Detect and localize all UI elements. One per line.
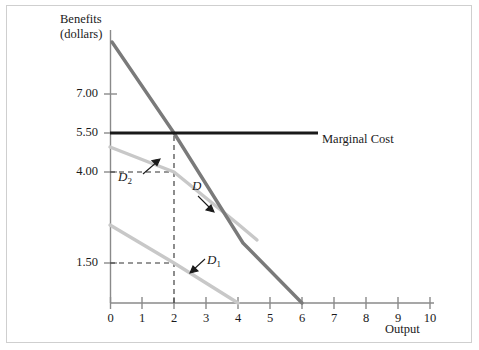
y-axis-title-line2: (dollars) <box>60 27 102 42</box>
x-tick-label-8: 8 <box>354 311 378 326</box>
d1-curve-label: D1 <box>207 252 221 268</box>
x-tick-label-0: 0 <box>99 311 123 326</box>
d1-curve-label-subscript: 1 <box>216 259 221 269</box>
marginal-cost-label: Marginal Cost <box>322 132 394 147</box>
d2-curve-label: D2 <box>118 169 132 185</box>
figure-container: Benefits (dollars) Output 7.00 5.50 4.00… <box>0 0 479 350</box>
d2-curve-label-subscript: 2 <box>127 176 132 186</box>
y-tick-label-4: 4.00 <box>52 164 98 179</box>
x-tick-label-4: 4 <box>226 311 250 326</box>
y-tick-label-7: 7.00 <box>52 86 98 101</box>
x-tick-label-9: 9 <box>386 311 410 326</box>
y-tick-label-1_5: 1.50 <box>52 255 98 270</box>
d1-curve-label-text: D <box>207 252 216 267</box>
curve-d2 <box>110 147 257 240</box>
d-curve-label-text: D <box>192 178 201 193</box>
x-tick-label-7: 7 <box>322 311 346 326</box>
x-tick-label-6: 6 <box>290 311 314 326</box>
x-tick-label-1: 1 <box>130 311 154 326</box>
x-tick-label-3: 3 <box>194 311 218 326</box>
x-tick-label-2: 2 <box>162 311 186 326</box>
y-axis-title-line1: Benefits <box>60 12 102 27</box>
d2-curve-label-text: D <box>118 169 127 184</box>
x-tick-label-10: 10 <box>418 311 442 326</box>
y-tick-label-5_5: 5.50 <box>52 125 98 140</box>
d-curve-label: D <box>192 178 201 194</box>
y-axis-title: Benefits (dollars) <box>60 12 102 42</box>
x-tick-label-5: 5 <box>258 311 282 326</box>
d-arrow-head <box>206 205 214 212</box>
